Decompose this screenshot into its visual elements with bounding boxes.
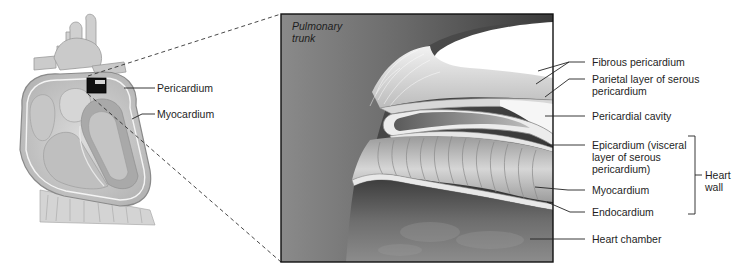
label-epicardium-line3: pericardium) [592,163,650,175]
label-myocardium-inset: Myocardium [592,184,649,196]
heart-illustration [20,14,155,225]
label-pericardial-cavity: Pericardial cavity [592,110,671,122]
heart-wall-diagram: Pericardium Myocardium Pulmonary trunk F… [0,0,747,275]
label-heart-chamber: Heart chamber [592,233,661,245]
label-heart-wall-line2: wall [705,181,723,193]
label-pulmonary-trunk-line2: trunk [292,32,315,44]
label-endocardium: Endocardium [592,206,654,218]
label-pericardium: Pericardium [157,82,213,94]
label-pulmonary-trunk-line1: Pulmonary [292,20,342,32]
label-parietal-layer-line2: pericardium [592,85,647,97]
label-heart-wall-line1: Heart [705,169,731,181]
label-myocardium-overview: Myocardium [157,108,214,120]
label-epicardium-line1: Epicardium (visceral [592,139,687,151]
inset-illustration [281,14,553,262]
label-fibrous-pericardium: Fibrous pericardium [592,56,685,68]
label-parietal-layer-line1: Parietal layer of serous [592,73,699,85]
label-epicardium-line2: layer of serous [592,151,661,163]
